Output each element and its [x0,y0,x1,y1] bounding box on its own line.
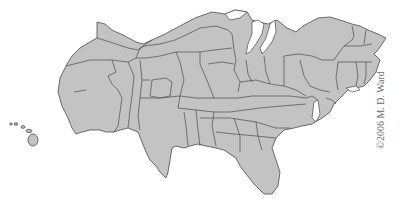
hawaii-kauai [10,123,13,125]
hawaii-molokai [21,126,25,129]
hawaii-oahu [14,123,18,126]
hawaii [10,123,38,146]
hawaii-big-island [28,134,38,146]
hawaii-maui [26,129,32,132]
us-cartogram-map [0,0,410,203]
contiguous-us-landmass [58,10,386,194]
copyright-credit: ©2006 M. D. Ward [375,71,386,148]
